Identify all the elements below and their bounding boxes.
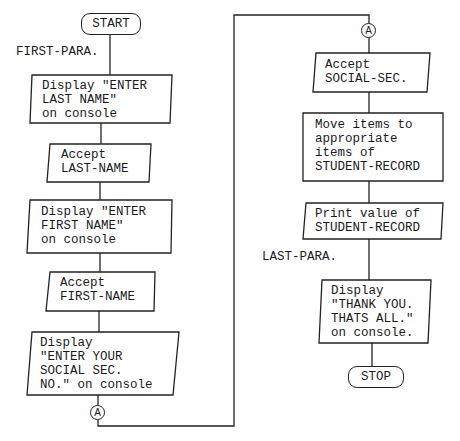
step-4-text: Accept FIRST-NAME	[60, 276, 135, 304]
first-para-label: FIRST-PARA.	[16, 45, 99, 59]
stop-label: STOP	[361, 370, 391, 384]
step-7-text: Move items to appropriate items of STUDE…	[315, 118, 420, 174]
step-8-text: Print value of STUDENT-RECORD	[315, 207, 420, 235]
start-terminal: START	[81, 13, 141, 35]
start-label: START	[92, 17, 130, 31]
last-para-label: LAST-PARA.	[262, 250, 337, 264]
step-2-text: Accept LAST-NAME	[61, 148, 129, 176]
connector-a-out: A	[90, 405, 105, 420]
step-9-text: Display "THANK YOU. THATS ALL." on conso…	[331, 284, 414, 340]
stop-terminal: STOP	[348, 366, 404, 388]
step-5-text: Display "ENTER YOUR SOCIAL SEC. NO." on …	[40, 336, 153, 392]
step-1-text: Display "ENTER LAST NAME" on console	[42, 79, 147, 121]
step-6-text: Accept SOCIAL-SEC.	[325, 58, 408, 86]
connector-a-in: A	[361, 23, 376, 38]
step-3-text: Display "ENTER FIRST NAME" on console	[41, 205, 146, 247]
